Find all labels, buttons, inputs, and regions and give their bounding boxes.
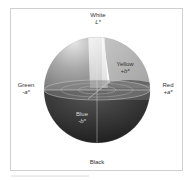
figure-stage: White L* Yellow +b* Green -a* Red +a* Bl… [0,0,191,180]
label-blue-name: Blue [70,111,94,118]
label-yellow-name: Yellow [113,61,137,68]
label-red-axis: +a* [157,89,179,96]
label-white-name: White [86,12,110,19]
figure-caption-placeholder [11,175,89,177]
label-blue: Blue -b* [70,111,94,125]
sphere-top-right-wedge [102,30,155,86]
label-black: Black [84,159,110,166]
label-red-name: Red [157,82,179,89]
label-green-name: Green [13,82,39,89]
label-blue-axis: -b* [70,118,94,125]
label-red: Red +a* [157,82,179,96]
label-black-name: Black [84,159,110,166]
label-yellow: Yellow +b* [113,61,137,75]
label-white: White L* [86,12,110,26]
label-green: Green -a* [13,82,39,96]
label-green-axis: -a* [13,89,39,96]
label-yellow-axis: +b* [113,68,137,75]
label-white-axis: L* [86,19,110,26]
